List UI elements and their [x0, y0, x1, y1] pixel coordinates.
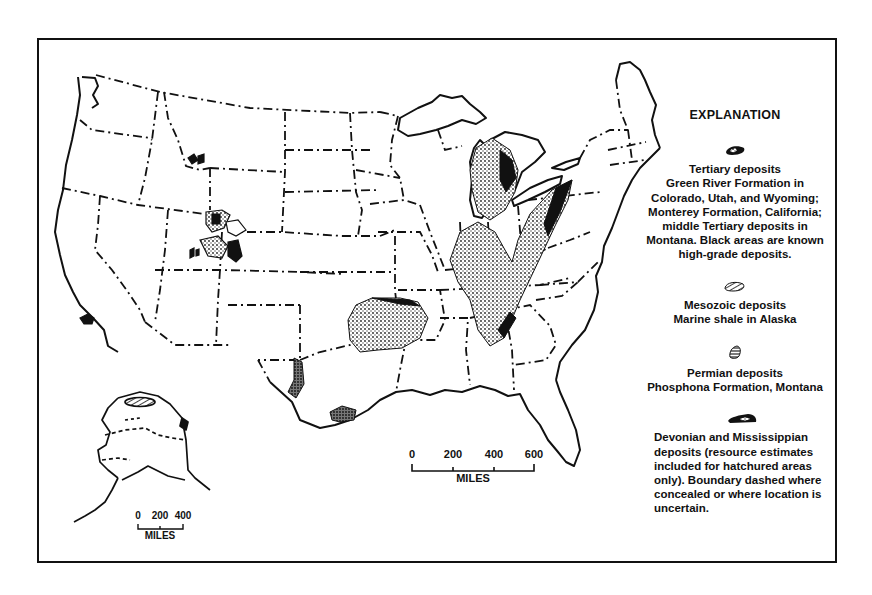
devonian-mississippian-deposit-symbol	[726, 412, 758, 424]
tertiary-deposits	[80, 154, 246, 324]
scale-tick-label: 0	[135, 510, 141, 521]
mesozoic-deposit-symbol	[723, 280, 747, 292]
alaska-scale-bar: 0 200 400 MILES	[136, 510, 206, 524]
legend-item-devonian-mississippian: Devonian and Mississippian deposits (res…	[640, 412, 830, 515]
legend-item-description: Marine shale in Alaska	[640, 312, 830, 326]
legend-title: EXPLANATION	[640, 108, 830, 122]
scale-tick-label: 200	[444, 448, 462, 460]
devonian-mississippian-deposits	[288, 138, 572, 422]
legend-item-name: Permian deposits	[640, 366, 830, 380]
scale-tick-label: 600	[525, 448, 543, 460]
scale-unit-label: MILES	[456, 472, 490, 484]
legend-item-description: Green River Formation in Colorado, Utah,…	[640, 176, 830, 261]
scale-tick-label: 200	[152, 510, 169, 521]
scale-unit-label: MILES	[145, 530, 176, 541]
main-scale-bar: 0 200 400 600 MILES	[410, 448, 550, 462]
scale-tick-label: 400	[175, 510, 192, 521]
legend-item-description: Phosphona Formation, Montana	[640, 380, 830, 394]
permian-deposit-symbol	[727, 344, 743, 360]
legend: EXPLANATION Tertiary deposits Green Rive…	[640, 108, 830, 534]
mesozoic-alaska-deposit	[125, 398, 155, 407]
legend-item-permian: Permian deposits Phosphona Formation, Mo…	[640, 344, 830, 394]
legend-item-mesozoic: Mesozoic deposits Marine shale in Alaska	[640, 280, 830, 326]
legend-item-name: Tertiary deposits	[640, 162, 830, 176]
alaska-inset	[74, 392, 210, 522]
scale-tick-label: 400	[485, 448, 503, 460]
legend-item-name: Mesozoic deposits	[640, 298, 830, 312]
tertiary-deposit-symbol	[724, 144, 746, 156]
legend-item-description: Devonian and Mississippian deposits (res…	[654, 430, 830, 515]
scale-tick-label: 0	[409, 448, 415, 460]
legend-item-tertiary: Tertiary deposits Green River Formation …	[640, 144, 830, 261]
